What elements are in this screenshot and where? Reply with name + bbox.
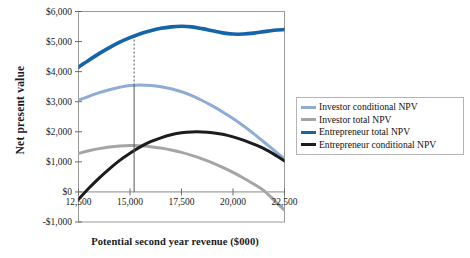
legend-swatch-icon — [301, 106, 316, 109]
legend-swatch-icon — [301, 131, 316, 134]
legend-item: Investor total NPV — [299, 114, 460, 127]
x-tick-label: 12,500 — [56, 197, 102, 207]
chart-figure: Net present value -$1,000$0$1,000$2,000$… — [0, 0, 470, 258]
legend-item-label: Investor conditional NPV — [319, 101, 418, 113]
x-axis-title: Potential second year revenue ($000) — [60, 236, 290, 247]
legend-item-label: Entrepreneur conditional NPV — [319, 139, 436, 151]
x-tick-label: 22,500 — [262, 197, 308, 207]
x-tick-label: 17,500 — [159, 197, 205, 207]
legend-swatch-icon — [301, 143, 316, 146]
legend-item-label: Entrepreneur total NPV — [319, 126, 410, 138]
legend-swatch-icon — [301, 118, 316, 121]
x-tick-label: 15,000 — [107, 197, 153, 207]
legend-item-label: Investor total NPV — [319, 114, 391, 126]
legend-item: Investor conditional NPV — [299, 101, 460, 114]
x-tick-label: 20,000 — [210, 197, 256, 207]
chart-legend: Investor conditional NPVInvestor total N… — [296, 97, 464, 155]
legend-item: Entrepreneur total NPV — [299, 126, 460, 139]
legend-item: Entrepreneur conditional NPV — [299, 139, 460, 152]
